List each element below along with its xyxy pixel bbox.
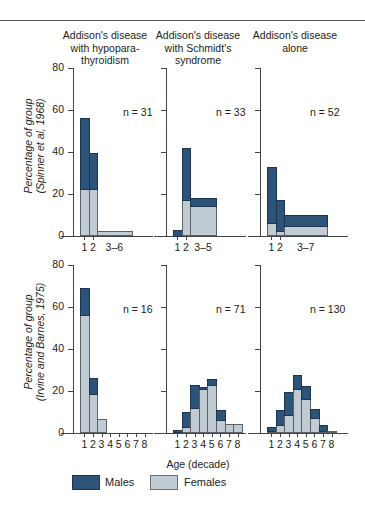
sample-size-label: n = 71: [216, 303, 246, 315]
x-tick: [220, 433, 221, 437]
x-tick-label: 8: [140, 438, 150, 450]
x-tick-label: 8: [233, 438, 243, 450]
y-tick: [255, 265, 260, 266]
x-tick: [271, 433, 272, 437]
x-tick: [102, 433, 103, 437]
bar-segment-females: [190, 205, 217, 236]
bar-segment-males: [284, 215, 328, 227]
bar-segment-females: [89, 188, 99, 236]
x-axis: [154, 433, 246, 434]
x-tick: [177, 236, 178, 240]
y-axis-label-top: Percentage of group (Spinner et al, 1968…: [22, 76, 46, 216]
y-tick-label: 0: [44, 426, 64, 438]
y-tick-label: 0: [44, 229, 64, 241]
y-tick: [161, 265, 166, 266]
y-tick-label: 80: [44, 61, 64, 73]
x-axis: [61, 433, 153, 434]
y-tick-label: 60: [44, 300, 64, 312]
stacked-bar: [233, 425, 243, 433]
y-tick: [255, 236, 260, 237]
x-tick: [271, 236, 272, 240]
x-tick: [332, 433, 333, 437]
x-tick: [110, 433, 111, 437]
y-tick-label: 80: [44, 258, 64, 270]
x-tick: [127, 433, 128, 437]
y-label-line: Percentage of group: [22, 272, 34, 412]
y-axis: [166, 68, 167, 236]
x-tick: [195, 433, 196, 437]
y-tick: [255, 349, 260, 350]
x-tick: [306, 433, 307, 437]
bar-segment-males: [207, 379, 217, 385]
x-tick: [314, 433, 315, 437]
bar-segment-males: [216, 410, 226, 422]
y-tick: [161, 194, 166, 195]
y-tick: [161, 433, 166, 434]
x-axis: [154, 236, 246, 237]
x-tick-label: 3–5: [190, 241, 216, 253]
x-tick: [289, 433, 290, 437]
x-axis-title: Age (decade): [148, 458, 248, 470]
sample-size-label: n = 33: [216, 106, 246, 118]
x-tick-label: 3–7: [284, 241, 327, 253]
x-tick: [93, 236, 94, 240]
y-tick: [68, 307, 73, 308]
stacked-bar: [97, 232, 132, 236]
column-title-schmidt: Addison's disease with Schmidt's syndrom…: [148, 29, 248, 67]
y-tick: [161, 110, 166, 111]
y-tick-label: 20: [44, 384, 64, 396]
top-rule: [0, 20, 365, 21]
y-tick: [68, 433, 73, 434]
bar-segment-males: [89, 378, 99, 395]
legend-label-males: Males: [105, 476, 134, 488]
x-tick: [186, 433, 187, 437]
bar-segment-males: [182, 148, 192, 202]
x-tick: [323, 433, 324, 437]
x-tick: [119, 433, 120, 437]
x-tick: [280, 433, 281, 437]
y-axis: [260, 265, 261, 433]
bar-segment-males: [80, 288, 90, 316]
bar-segment-males: [89, 153, 99, 190]
x-tick: [297, 433, 298, 437]
x-axis: [248, 236, 348, 237]
bar-segment-females: [97, 231, 132, 236]
y-axis: [73, 265, 74, 433]
x-tick: [84, 433, 85, 437]
column-title-text: Addison's disease with Schmidt's syndrom…: [148, 29, 248, 67]
y-tick-label: 40: [44, 342, 64, 354]
y-axis-label-bottom: Percentage of group (Irvine and Barnes, …: [22, 272, 46, 412]
y-tick: [68, 110, 73, 111]
y-tick: [161, 391, 166, 392]
y-tick: [255, 433, 260, 434]
column-title-text: Addison's disease alone: [245, 29, 345, 54]
y-tick-label: 20: [44, 187, 64, 199]
sample-size-label: n = 130: [310, 303, 345, 315]
sample-size-label: n = 52: [310, 106, 340, 118]
x-tick: [93, 433, 94, 437]
stacked-bar: [190, 198, 217, 236]
column-title-text: Addison's disease with hypopara-thyroidi…: [55, 29, 155, 67]
column-title-alone: Addison's disease alone: [245, 29, 345, 54]
bar-segment-males: [190, 198, 217, 206]
x-axis: [61, 236, 153, 237]
legend-label-females: Females: [184, 476, 226, 488]
y-tick: [161, 152, 166, 153]
y-tick: [255, 68, 260, 69]
y-tick: [255, 307, 260, 308]
legend-swatch-males: [72, 475, 100, 490]
x-tick: [177, 433, 178, 437]
x-tick-label: 8: [327, 438, 337, 450]
y-axis: [260, 68, 261, 236]
x-tick: [186, 236, 187, 240]
y-tick: [68, 265, 73, 266]
y-tick: [68, 391, 73, 392]
legend-swatch-females: [150, 475, 178, 490]
sample-size-label: n = 31: [123, 106, 153, 118]
sample-size-label: n = 16: [123, 303, 153, 315]
y-axis: [73, 68, 74, 236]
x-tick: [145, 433, 146, 437]
y-tick: [161, 68, 166, 69]
stacked-bar: [97, 420, 107, 433]
bar-segment-males: [310, 409, 320, 419]
